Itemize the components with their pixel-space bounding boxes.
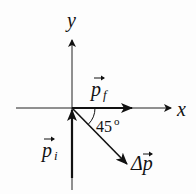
p-final-subscript: f: [103, 87, 109, 102]
x-axis-label: x: [176, 98, 186, 120]
p-initial-subscript: i: [54, 148, 58, 163]
p-final-arrowhead-icon: [101, 76, 105, 81]
p-initial-label: p: [40, 139, 52, 162]
diagram-canvas: y x p f p i 45 o Δp: [0, 0, 196, 194]
angle-degree-symbol: o: [114, 115, 120, 127]
angle-value: 45: [96, 118, 112, 135]
angle-arc: [88, 108, 95, 124]
vector-diagram: y x p f p i 45 o Δp: [0, 0, 196, 194]
p-final-label: p: [89, 78, 101, 101]
y-axis-label: y: [65, 9, 76, 32]
delta-p-label: Δp: [130, 152, 153, 175]
